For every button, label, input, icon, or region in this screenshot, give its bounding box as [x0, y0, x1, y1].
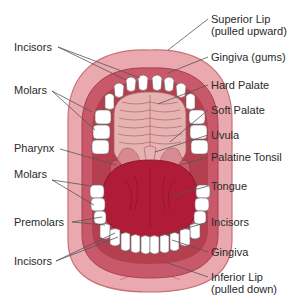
label-incisors-lower: Incisors — [14, 255, 52, 267]
label-gingiva: Gingiva — [211, 246, 248, 258]
label-tongue: Tongue — [211, 180, 247, 192]
label-pharynx: Pharynx — [14, 142, 54, 154]
label-inferior-lip: Inferior Lip (pulled down) — [211, 271, 277, 295]
label-gingiva-gums: Gingiva (gums) — [211, 51, 286, 63]
label-inferior-lip-line1: Inferior Lip — [211, 271, 277, 283]
label-soft-palate: Soft Palate — [211, 104, 265, 116]
label-molars-lower: Molars — [14, 168, 47, 180]
label-superior-lip: Superior Lip (pulled upward) — [211, 13, 287, 37]
label-incisors-upper: Incisors — [14, 41, 52, 53]
label-palatine-tonsil: Palatine Tonsil — [211, 151, 282, 163]
label-molars-upper: Molars — [14, 84, 47, 96]
label-superior-lip-line2: (pulled upward) — [211, 25, 287, 37]
label-premolars: Premolars — [14, 216, 64, 228]
label-superior-lip-line1: Superior Lip — [211, 13, 287, 25]
label-incisors-lower-right: Incisors — [211, 216, 249, 228]
label-inferior-lip-line2: (pulled down) — [211, 283, 277, 295]
label-uvula: Uvula — [211, 129, 239, 141]
label-hard-palate: Hard Palate — [211, 79, 269, 91]
